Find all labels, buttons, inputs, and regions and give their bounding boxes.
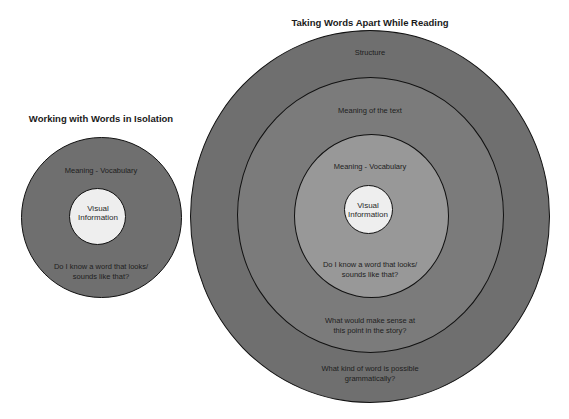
right-vocab-label: Meaning - Vocabulary xyxy=(334,162,407,172)
right-center-label-2: Information xyxy=(348,210,388,220)
right-question-label-1: Do I know a word that looks/ xyxy=(323,260,417,270)
sense-question-label-2: this point in the story? xyxy=(334,326,407,336)
left-question-label-1: Do I know a word that looks/ xyxy=(54,262,148,272)
right-diagram-title: Taking Words Apart While Reading xyxy=(291,17,448,28)
sense-question-label-1: What would make sense at xyxy=(325,316,415,326)
right-question-label-2: sounds like that? xyxy=(342,270,398,280)
left-vocab-label: Meaning - Vocabulary xyxy=(65,166,138,176)
structure-label: Structure xyxy=(355,48,385,58)
meaning-text-label: Meaning of the text xyxy=(338,106,402,116)
left-question-label-2: sounds like that? xyxy=(73,272,129,282)
grammar-question-label-2: grammatically? xyxy=(345,374,395,384)
left-diagram-title: Working with Words in Isolation xyxy=(29,113,173,124)
grammar-question-label-1: What kind of word is possible xyxy=(321,364,418,374)
left-center-label-2: Information xyxy=(78,213,118,223)
